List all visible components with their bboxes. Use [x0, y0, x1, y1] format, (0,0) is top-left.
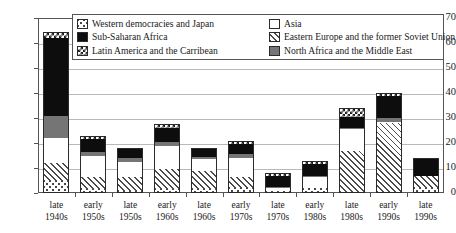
legend-item: Latin America and the Carribean	[77, 44, 265, 58]
x-tick-label: late1940s	[38, 200, 75, 223]
bar-segment-sub	[191, 149, 217, 157]
x-tick-label-line: 1940s	[38, 212, 75, 224]
legend-swatch-north	[269, 46, 280, 56]
x-tick-label-line: late	[407, 200, 444, 212]
legend-label: Eastern Europe and the former Soviet Uni…	[284, 32, 455, 42]
legend-label: Sub-Saharan Africa	[92, 32, 167, 42]
bar-segment-west	[80, 189, 106, 193]
bar-segment-north	[302, 176, 328, 177]
bar-segment-west	[154, 189, 180, 193]
legend-swatch-latin	[77, 46, 88, 56]
x-tick-label-line: late	[112, 200, 149, 212]
bar-segment-west	[376, 192, 402, 193]
bar-segment-sub	[413, 158, 439, 176]
bar-segment-latin	[376, 93, 402, 96]
bar-segment-latin	[154, 124, 180, 128]
legend-label: Asia	[284, 19, 302, 29]
bar-segment-north	[265, 187, 291, 188]
bar-segment-asia	[228, 158, 254, 177]
x-tick-label: late1960s	[186, 200, 223, 223]
bar-segment-sub	[376, 96, 402, 119]
x-tick-label: late1970s	[259, 200, 296, 223]
x-tick-label-line: late	[38, 200, 75, 212]
bar-segment-sub	[339, 117, 365, 128]
bar-segment-east	[191, 171, 217, 190]
x-tick-label: early1960s	[149, 200, 186, 223]
legend-swatch-asia	[269, 19, 280, 29]
bar-segment-east	[339, 151, 365, 192]
x-tick-label-line: 1970s	[259, 212, 296, 224]
bar-segment-asia	[117, 162, 143, 177]
x-tick-label-line: 1990s	[370, 212, 407, 224]
bar-segment-west	[265, 192, 291, 193]
bar-segment-sub	[302, 164, 328, 175]
bar-segment-latin	[117, 148, 143, 149]
bar-segment-east	[265, 191, 291, 192]
bar-segment-west	[302, 189, 328, 193]
bar-segment-sub	[265, 176, 291, 187]
bar-segment-asia	[191, 159, 217, 170]
bar-segment-asia	[265, 188, 291, 191]
x-tick-label-line: early	[223, 200, 260, 212]
x-tick-label: early1990s	[370, 200, 407, 223]
bar-segment-north	[376, 118, 402, 122]
bar-segment-latin	[339, 108, 365, 117]
legend-column-right: AsiaEastern Europe and the former Soviet…	[269, 17, 445, 58]
bar-segment-west	[43, 181, 69, 194]
bar-segment-sub	[228, 144, 254, 154]
legend-label: Western democracies and Japan	[92, 19, 214, 29]
bar-segment-sub	[80, 139, 106, 152]
legend-item: Sub-Saharan Africa	[77, 31, 265, 45]
legend-label: North Africa and the Middle East	[284, 46, 412, 56]
x-tick-label: early1950s	[75, 200, 112, 223]
x-tick-label-line: 1990s	[407, 212, 444, 224]
bar-segment-east	[413, 176, 439, 189]
legend-swatch-west	[77, 19, 88, 29]
x-tick-label-line: early	[296, 200, 333, 212]
bar-segment-east	[154, 169, 180, 189]
x-tick-label: early1970s	[223, 200, 260, 223]
x-axis-labels: late1940searly1950slate1950searly1960sla…	[38, 196, 444, 232]
bar-segment-north	[80, 152, 106, 156]
x-tick-label-line: 1960s	[149, 212, 186, 224]
x-tick-label: late1980s	[333, 200, 370, 223]
bar-segment-asia	[339, 129, 365, 150]
legend-item: North Africa and the Middle East	[269, 44, 445, 58]
bar-segment-east	[228, 177, 254, 188]
x-tick-label-line: early	[370, 200, 407, 212]
bar-segment-asia	[376, 122, 402, 123]
bar-segment-west	[228, 188, 254, 193]
x-tick-label-line: 1980s	[296, 212, 333, 224]
bar-segment-east	[376, 123, 402, 192]
bar-segment-sub	[154, 128, 180, 142]
legend-label: Latin America and the Carribean	[92, 46, 218, 56]
bar-segment-north	[154, 142, 180, 146]
bar-segment-east	[117, 177, 143, 191]
legend-item: Asia	[269, 17, 445, 31]
x-tick-label: early1980s	[296, 200, 333, 223]
bar-segment-latin	[265, 173, 291, 176]
bar-segment-sub	[43, 38, 69, 116]
legend-swatch-sub	[77, 32, 88, 42]
bar-segment-asia	[80, 156, 106, 177]
legend-column-left: Western democracies and JapanSub-Saharan…	[77, 17, 265, 58]
bar-segment-latin	[43, 32, 69, 38]
bar-segment-asia	[154, 146, 180, 170]
x-tick-label-line: 1960s	[186, 212, 223, 224]
bar-segment-latin	[80, 136, 106, 140]
bar-segment-sub	[117, 149, 143, 158]
bar-segment-asia	[302, 177, 328, 188]
x-tick-label-line: 1970s	[223, 212, 260, 224]
bar-segment-west	[339, 192, 365, 193]
bar-segment-latin	[228, 141, 254, 145]
x-tick-label-line: 1950s	[75, 212, 112, 224]
bar-segment-north	[339, 128, 365, 129]
legend-swatch-east	[269, 32, 280, 42]
x-tick-label-line: 1980s	[333, 212, 370, 224]
x-tick-label-line: early	[149, 200, 186, 212]
legend-item: Western democracies and Japan	[77, 17, 265, 31]
bar-segment-west	[117, 191, 143, 194]
y-tick-mark	[34, 193, 38, 194]
bar-segment-north	[117, 158, 143, 162]
stacked-bar-chart: 010203040506070 late1940searly1950slate1…	[0, 0, 456, 233]
